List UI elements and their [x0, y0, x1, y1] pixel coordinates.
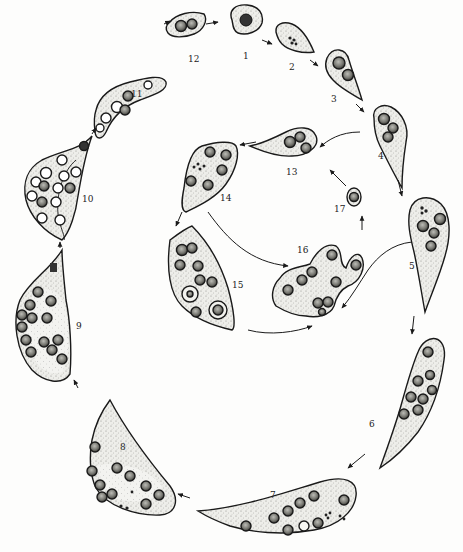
arrow-3-to-4	[356, 104, 364, 112]
cell-stage-12	[166, 12, 205, 36]
arrow-7-to-8	[178, 494, 190, 498]
cell-stage-4	[374, 106, 407, 188]
cell-stage-11	[94, 77, 166, 138]
cell-stage-17	[347, 188, 361, 206]
arrow-15-to-16	[248, 326, 312, 333]
stage-label-8: 8	[120, 443, 126, 452]
arrow-6-to-7	[348, 454, 365, 468]
cell-stage-5	[409, 198, 449, 312]
stage-label-10: 10	[82, 195, 93, 204]
stage-label-15: 15	[232, 281, 243, 290]
arrow-4-to-13	[320, 132, 360, 147]
cell-stage-2	[276, 23, 314, 53]
stage-label-17: 17	[334, 205, 345, 214]
cell-stage-7	[198, 479, 356, 535]
life-cycle-diagram: 1 2 3 4 5 6 7 8 9 10 11 12 13 14 15 16 1…	[0, 0, 463, 552]
cell-stage-8	[87, 400, 175, 515]
stage-label-11: 11	[131, 90, 142, 99]
stage-label-7: 7	[270, 491, 276, 500]
stage-label-14: 14	[220, 194, 231, 203]
arrow-5-to-6	[412, 316, 414, 334]
stage-label-6: 6	[369, 420, 375, 429]
cell-stage-9	[16, 250, 71, 381]
arrow-14-to-16	[208, 212, 288, 266]
cell-stage-15	[169, 226, 235, 330]
stage-label-12: 12	[188, 55, 199, 64]
cell-stage-13	[250, 128, 317, 156]
stage-label-1: 1	[243, 52, 249, 61]
cell-stage-3	[326, 50, 362, 100]
arrow-1-to-2	[262, 40, 272, 44]
stage-label-3: 3	[331, 95, 337, 104]
stage-label-5: 5	[409, 262, 415, 271]
arrow-12-to-1	[206, 22, 218, 24]
arrow-2-to-3	[310, 60, 318, 66]
cell-stage-6	[380, 339, 444, 468]
cell-stage-10	[25, 136, 92, 240]
stage-label-16: 16	[297, 246, 308, 255]
arrow-14-to-15	[176, 212, 182, 226]
arrow-8-to-9	[74, 380, 78, 388]
stage-label-13: 13	[286, 168, 297, 177]
stage-label-2: 2	[289, 63, 295, 72]
arrow-17-to-13	[330, 170, 346, 186]
cell-stage-1	[231, 5, 262, 34]
cell-stage-16	[273, 245, 364, 317]
diagram-canvas	[0, 0, 463, 552]
stage-label-9: 9	[76, 322, 82, 331]
stage-label-4: 4	[378, 152, 384, 161]
